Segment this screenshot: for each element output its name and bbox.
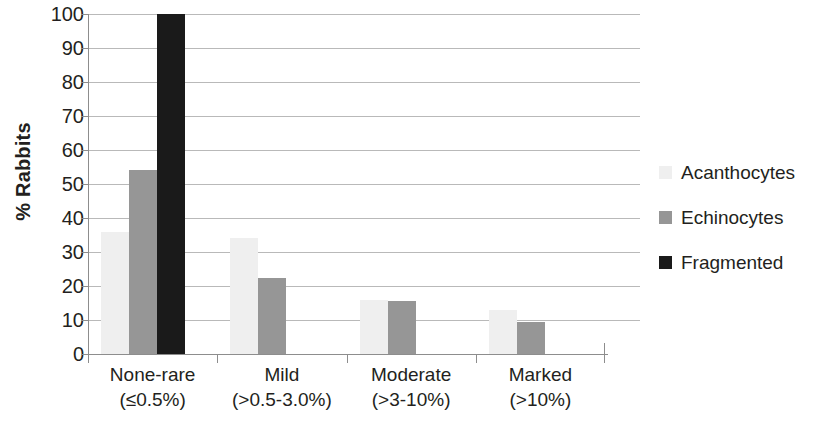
- x-category-label-name: Marked: [476, 362, 605, 387]
- x-category-label-range: (>0.5-3.0%): [217, 387, 346, 412]
- x-category-label: Moderate(>3-10%): [347, 362, 476, 412]
- y-tick-label: 60: [14, 140, 84, 160]
- x-category-label: None-rare(≤0.5%): [88, 362, 217, 412]
- x-category-label: Marked(>10%): [476, 362, 605, 412]
- y-tick-label: 20: [14, 276, 84, 296]
- y-tick-label: 10: [14, 310, 84, 330]
- y-tick-label: 100: [14, 4, 84, 24]
- legend-item-label: Fragmented: [681, 253, 783, 272]
- bar-series-group: [88, 14, 605, 354]
- x-category-label-range: (>3-10%): [347, 387, 476, 412]
- y-tick-label: 30: [14, 242, 84, 262]
- y-tick-label: 80: [14, 72, 84, 92]
- bar: [388, 301, 416, 354]
- legend-swatch-icon: [659, 211, 672, 224]
- legend-item: Acanthocytes: [659, 150, 813, 195]
- bar: [129, 170, 157, 354]
- bar: [258, 278, 286, 355]
- legend-item-label: Acanthocytes: [681, 163, 795, 182]
- x-category-label-name: Moderate: [347, 362, 476, 387]
- legend-swatch-icon: [659, 166, 672, 179]
- y-tick-label: 90: [14, 38, 84, 58]
- x-category-label-name: Mild: [217, 362, 346, 387]
- bar-chart-figure: % Rabbits 0102030405060708090100 None-ra…: [0, 0, 813, 433]
- bar: [360, 300, 388, 354]
- x-category-label: Mild(>0.5-3.0%): [217, 362, 346, 412]
- legend-item-label: Echinocytes: [681, 208, 783, 227]
- x-category-label-range: (≤0.5%): [88, 387, 217, 412]
- bar: [101, 232, 129, 354]
- y-tick-label: 0: [14, 344, 84, 364]
- y-axis-tick-labels: 0102030405060708090100: [0, 0, 84, 433]
- x-axis-category-labels: None-rare(≤0.5%)Mild(>0.5-3.0%)Moderate(…: [88, 362, 605, 432]
- legend-swatch-icon: [659, 256, 672, 269]
- x-category-label-range: (>10%): [476, 387, 605, 412]
- legend-item: Echinocytes: [659, 195, 813, 240]
- bar: [157, 14, 185, 354]
- x-category-label-name: None-rare: [88, 362, 217, 387]
- chart-legend: AcanthocytesEchinocytesFragmented: [659, 150, 813, 285]
- bar: [517, 322, 545, 354]
- gridline: [88, 354, 608, 355]
- y-tick-label: 50: [14, 174, 84, 194]
- y-tick-label: 70: [14, 106, 84, 126]
- y-tick-label: 40: [14, 208, 84, 228]
- plot-area: [88, 14, 605, 354]
- bar: [489, 310, 517, 354]
- legend-item: Fragmented: [659, 240, 813, 285]
- bar: [230, 238, 258, 354]
